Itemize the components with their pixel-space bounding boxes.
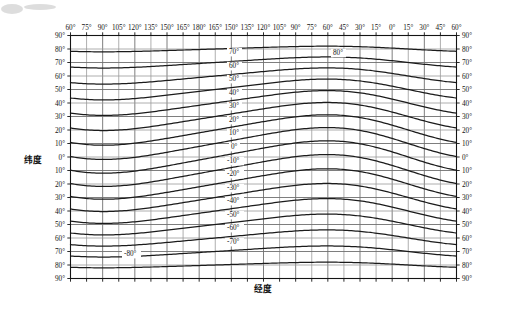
x-tick-label: 180° (192, 24, 206, 32)
geomagnetic-latitude-60-label: 60° (229, 62, 239, 70)
y-tick-label-right: 60° (462, 235, 472, 243)
x-tick-label: 105° (273, 24, 287, 32)
x-tick-label: 135° (241, 24, 255, 32)
geomagnetic-latitude-70-label: 70° (229, 48, 239, 56)
y-tick-label-left: 30° (55, 194, 65, 202)
geomagnetic-latitude-minus40-label: -40° (227, 197, 240, 205)
y-tick-label-left: 90° (55, 275, 65, 283)
x-tick-label: 60° (451, 24, 461, 32)
x-tick-label: 105° (112, 24, 126, 32)
x-tick-label: 15° (371, 24, 381, 32)
x-tick-label: 135° (144, 24, 158, 32)
y-tick-label-left: 50° (55, 221, 65, 229)
y-tick-label-left: 70° (55, 248, 65, 256)
y-tick-label-right: 90° (462, 275, 472, 283)
y-tick-label-right: 70° (462, 248, 472, 256)
x-tick-label: 150° (225, 24, 239, 32)
x-tick-label: 90° (291, 24, 301, 32)
geomagnetic-latitude-minus70-label: -70° (227, 238, 240, 246)
geomagnetic-latitude-minus10-label: -10° (227, 157, 240, 165)
y-tick-label-left: 80° (55, 46, 65, 54)
geomagnetic-latitude-20-label: 20° (229, 116, 239, 124)
geomagnetic-latitude-30-label: 30° (229, 102, 239, 110)
y-tick-label-left: 80° (55, 262, 65, 270)
y-tick-label-right: 40° (462, 208, 472, 216)
y-tick-label-right: 50° (462, 221, 472, 229)
x-tick-label: 0° (389, 24, 396, 32)
y-tick-label-left: 50° (55, 86, 65, 94)
x-tick-label: 45° (435, 24, 445, 32)
x-tick-label: 165° (208, 24, 222, 32)
scan-artifacts (1, 4, 56, 14)
x-tick-label: 60° (65, 24, 75, 32)
x-tick-label: 30° (419, 24, 429, 32)
geomagnetic-latitude-minus80-label: -80° (124, 250, 137, 258)
y-tick-label-left: 30° (55, 113, 65, 121)
y-tick-label-right: 60° (462, 73, 472, 81)
y-tick-label-left: 90° (55, 32, 65, 40)
y-tick-label-left: 60° (55, 235, 65, 243)
geomagnetic-latitude-0-label: 0° (231, 143, 238, 151)
geomagnetic-latitude-50-label: 50° (229, 75, 239, 83)
y-tick-label-right: 0° (462, 154, 469, 162)
x-tick-label: 75° (307, 24, 317, 32)
geomagnetic-latitude-10-label: 10° (229, 129, 239, 137)
x-tick-label: 30° (355, 24, 365, 32)
geomagnetic-latitude-minus60-label: -60° (227, 224, 240, 232)
y-tick-label-left: 40° (55, 208, 65, 216)
y-tick-label-right: 20° (462, 181, 472, 189)
x-tick-label: 165° (176, 24, 190, 32)
x-tick-label: 60° (323, 24, 333, 32)
x-tick-label: 120° (128, 24, 142, 32)
x-tick-label: 15° (403, 24, 413, 32)
y-tick-label-left: 60° (55, 73, 65, 81)
x-tick-label: 90° (98, 24, 108, 32)
geomagnetic-latitude-minus30-label: -30° (227, 184, 240, 192)
x-tick-label: 45° (339, 24, 349, 32)
y-tick-label-left: 0° (59, 154, 66, 162)
y-tick-label-left: 70° (55, 59, 65, 67)
x-tick-label: 150° (160, 24, 174, 32)
y-axis-title: 纬度 (24, 154, 42, 165)
y-tick-label-left: 10° (55, 140, 65, 148)
y-tick-label-left: 20° (55, 181, 65, 189)
y-tick-label-right: 80° (462, 46, 472, 54)
y-tick-label-left: 40° (55, 100, 65, 108)
y-tick-label-right: 80° (462, 262, 472, 270)
y-tick-label-right: 30° (462, 194, 472, 202)
x-tick-label: 120° (257, 24, 271, 32)
geomagnetic-latitude-minus20-label: -20° (227, 170, 240, 178)
geomagnetic-latitude-40-label: 40° (229, 89, 239, 97)
x-tick-label: 75° (82, 24, 92, 32)
y-tick-label-left: 20° (55, 127, 65, 135)
y-tick-label-right: 90° (462, 32, 472, 40)
y-tick-label-right: 20° (462, 127, 472, 135)
y-tick-label-left: 10° (55, 167, 65, 175)
geomagnetic-latitude-80-label: 80° (333, 49, 343, 57)
chart-svg: 60°75°90°105°120°135°150°165°180°165°150… (0, 0, 514, 311)
y-tick-label-right: 70° (462, 59, 472, 67)
y-tick-label-right: 30° (462, 113, 472, 121)
y-tick-label-right: 10° (462, 140, 472, 148)
y-tick-label-right: 40° (462, 100, 472, 108)
geomagnetic-latitude-minus50-label: -50° (227, 211, 240, 219)
y-tick-label-right: 10° (462, 167, 472, 175)
y-tick-label-right: 50° (462, 86, 472, 94)
x-axis-title: 经度 (254, 283, 272, 294)
geomagnetic-latitude-chart: 60°75°90°105°120°135°150°165°180°165°150… (0, 0, 514, 311)
